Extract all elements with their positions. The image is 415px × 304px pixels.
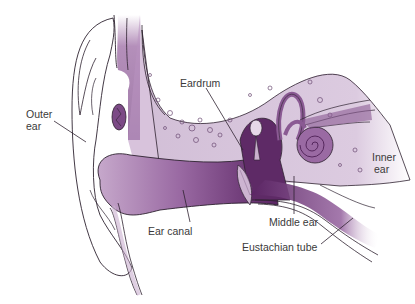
ear-illustration bbox=[0, 0, 415, 304]
label-eustachian-tube: Eustachian tube bbox=[242, 241, 317, 253]
ear-anatomy-diagram: Outer ear Eardrum Inner ear Middle ear E… bbox=[0, 0, 415, 304]
label-eardrum: Eardrum bbox=[180, 77, 220, 89]
label-outer-ear: Outer ear bbox=[26, 108, 52, 132]
label-ear-canal: Ear canal bbox=[148, 225, 192, 237]
label-inner-ear: Inner ear bbox=[372, 151, 396, 175]
label-middle-ear: Middle ear bbox=[269, 216, 318, 228]
